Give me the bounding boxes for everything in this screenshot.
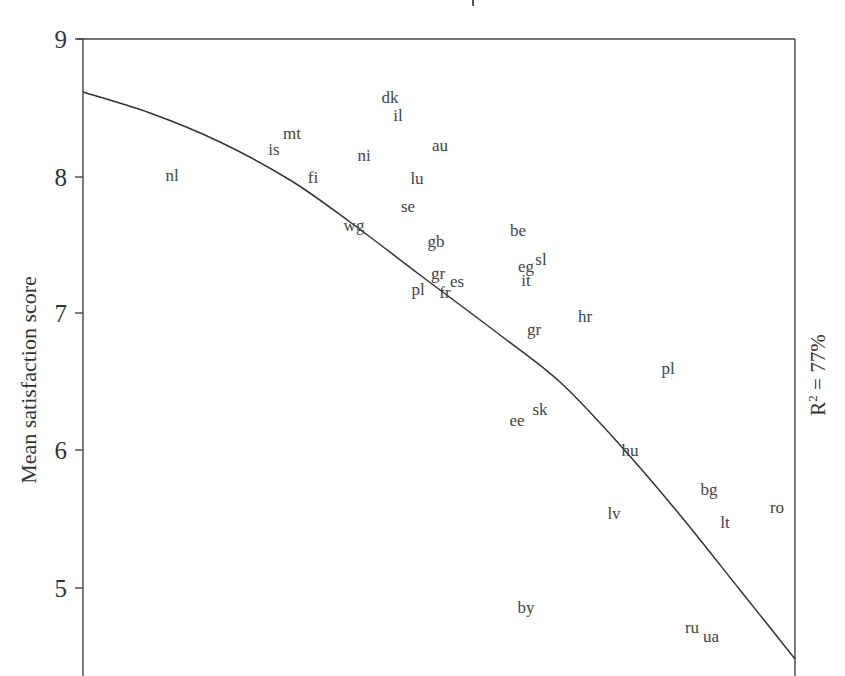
data-point-gr: gr bbox=[431, 264, 446, 283]
data-point-wg: wg bbox=[344, 216, 365, 235]
data-point-nl: nl bbox=[165, 166, 179, 185]
data-point-hu: hu bbox=[622, 441, 640, 460]
y-tick-7: 7 bbox=[55, 300, 68, 327]
data-point-lu: lu bbox=[410, 169, 424, 188]
data-point-au: au bbox=[432, 136, 449, 155]
data-point-es: es bbox=[450, 272, 464, 291]
y-tick-labels: 9 8 7 6 5 bbox=[55, 26, 68, 602]
data-point-ee: ee bbox=[509, 411, 524, 430]
data-point-fi: fi bbox=[308, 168, 319, 187]
data-point-ro: ro bbox=[770, 498, 784, 517]
fit-curve bbox=[83, 92, 795, 659]
r-value: = 77% bbox=[806, 334, 830, 395]
y-tick-9: 9 bbox=[55, 26, 68, 53]
y-tick-6: 6 bbox=[55, 437, 68, 464]
data-point-mt: mt bbox=[283, 124, 301, 143]
data-point-dk: dk bbox=[382, 88, 400, 107]
data-point-pl: pl bbox=[661, 359, 675, 378]
r-symbol: R bbox=[806, 402, 830, 416]
y-tick-5: 5 bbox=[55, 575, 68, 602]
data-point-hr: hr bbox=[578, 307, 593, 326]
data-point-il: il bbox=[393, 106, 403, 125]
data-point-be: be bbox=[510, 221, 526, 240]
data-point-gr: gr bbox=[527, 320, 542, 339]
y-axis-title: Mean satisfaction score bbox=[16, 276, 41, 484]
r-squared-annotation: R2 = 77% bbox=[805, 334, 830, 415]
data-point-sk: sk bbox=[532, 400, 548, 419]
data-point-ru: ru bbox=[685, 618, 700, 637]
data-point-by: by bbox=[518, 598, 536, 617]
data-point-is: is bbox=[268, 140, 279, 159]
data-point-sl: sl bbox=[535, 250, 547, 269]
data-point-gb: gb bbox=[428, 232, 445, 251]
data-point-bg: bg bbox=[701, 480, 719, 499]
y-ticks bbox=[75, 39, 83, 588]
data-point-se: se bbox=[401, 197, 415, 216]
cut-off-title-glyph bbox=[472, 0, 474, 6]
data-point-labels: nlismtfinidkilaulusewggbgrplfresbeegslit… bbox=[165, 88, 784, 646]
data-point-lt: lt bbox=[720, 513, 730, 532]
data-point-ua: ua bbox=[703, 627, 720, 646]
scatter-chart: 9 8 7 6 5 Mean satisfaction score R2 = 7… bbox=[0, 0, 845, 676]
plot-frame bbox=[77, 39, 795, 676]
y-tick-8: 8 bbox=[55, 164, 68, 191]
data-point-lv: lv bbox=[607, 504, 621, 523]
data-point-it: it bbox=[521, 271, 531, 290]
data-point-ni: ni bbox=[357, 146, 371, 165]
data-point-pl: pl bbox=[411, 280, 425, 299]
